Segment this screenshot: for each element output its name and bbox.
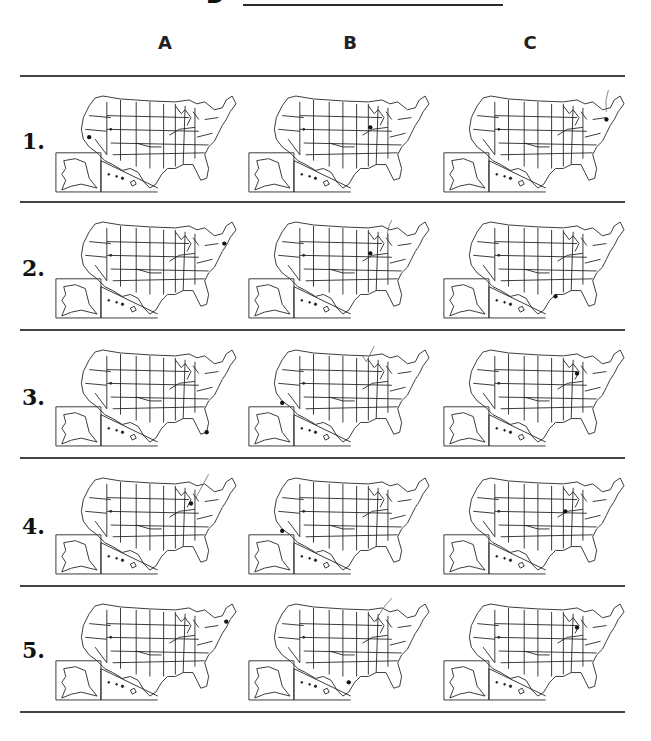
divider: [20, 75, 625, 77]
answer-option-1b[interactable]: [245, 88, 431, 200]
us-map-icon: [52, 596, 238, 708]
us-map-icon: [245, 342, 431, 454]
question-number: 3.: [22, 384, 45, 410]
us-map-icon: [52, 470, 238, 582]
divider: [20, 201, 625, 203]
location-dot-icon: [280, 529, 284, 533]
location-dot-icon: [224, 619, 228, 623]
us-map-icon: [440, 596, 626, 708]
answer-option-4a[interactable]: [52, 470, 238, 582]
column-header-a: A: [145, 32, 185, 53]
divider: [20, 329, 625, 331]
question-number: 2.: [22, 255, 45, 281]
question-number: 4.: [22, 513, 45, 539]
us-map-icon: [245, 88, 431, 200]
us-map-icon: [245, 470, 431, 582]
us-map-icon: [52, 342, 238, 454]
us-map-icon: [245, 596, 431, 708]
location-dot-icon: [553, 294, 557, 298]
location-dot-icon: [347, 680, 351, 684]
location-dot-icon: [222, 241, 226, 245]
answer-option-2a[interactable]: [52, 214, 238, 326]
section-letter: D: [206, 0, 224, 6]
answer-option-1a[interactable]: [52, 88, 238, 200]
us-map-icon: [440, 342, 626, 454]
answer-option-4b[interactable]: [245, 470, 431, 582]
section-title-underline: [243, 4, 503, 6]
question-number: 1.: [22, 128, 45, 154]
us-map-icon: [52, 88, 238, 200]
us-map-icon: [52, 214, 238, 326]
divider: [20, 585, 625, 587]
answer-option-3a[interactable]: [52, 342, 238, 454]
location-dot-icon: [280, 401, 284, 405]
divider: [20, 457, 625, 459]
location-dot-icon: [87, 135, 91, 139]
location-dot-icon: [563, 509, 567, 513]
column-header-c: C: [510, 32, 550, 53]
location-dot-icon: [604, 117, 608, 121]
answer-option-2b[interactable]: [245, 214, 431, 326]
location-dot-icon: [368, 251, 372, 255]
answer-option-4c[interactable]: [440, 470, 626, 582]
answer-option-5c[interactable]: [440, 596, 626, 708]
location-dot-icon: [189, 501, 193, 505]
divider: [20, 711, 625, 713]
location-dot-icon: [575, 371, 579, 375]
question-number: 5.: [22, 637, 45, 663]
column-header-b: B: [330, 32, 370, 53]
us-map-icon: [440, 214, 626, 326]
location-dot-icon: [368, 125, 372, 129]
us-map-icon: [440, 470, 626, 582]
answer-option-3c[interactable]: [440, 342, 626, 454]
location-dot-icon: [575, 625, 579, 629]
us-map-icon: [245, 214, 431, 326]
us-map-icon: [440, 88, 626, 200]
answer-option-5a[interactable]: [52, 596, 238, 708]
location-dot-icon: [205, 430, 209, 434]
answer-option-2c[interactable]: [440, 214, 626, 326]
answer-option-5b[interactable]: [245, 596, 431, 708]
checkmark-icon: [195, 474, 209, 499]
answer-option-1c[interactable]: [440, 88, 626, 200]
answer-option-3b[interactable]: [245, 342, 431, 454]
